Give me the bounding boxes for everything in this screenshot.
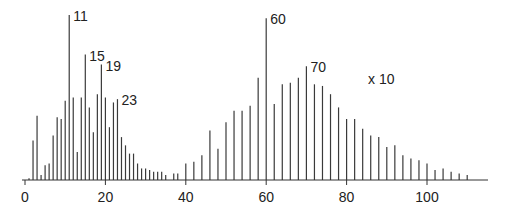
x-tick-label: 20: [98, 189, 114, 205]
peak-label: 15: [89, 48, 105, 64]
scale-note: x 10: [368, 71, 395, 87]
peak-label: 19: [105, 58, 121, 74]
peak-label: 60: [270, 11, 286, 27]
peak-label: 11: [73, 8, 88, 24]
x-tick-label: 100: [415, 189, 439, 205]
peak-annotations: 111519236070x 10: [73, 8, 394, 108]
x-tick-label: 80: [339, 189, 355, 205]
x-tick-label: 40: [178, 189, 194, 205]
x-ticks: 020406080100: [21, 180, 439, 205]
peak-label: 23: [121, 92, 137, 108]
bars-group: [29, 15, 467, 180]
x-tick-label: 0: [21, 189, 29, 205]
peak-label: 70: [310, 59, 326, 75]
mass-spectrum-chart: 020406080100 111519236070x 10: [0, 0, 505, 211]
x-tick-label: 60: [258, 189, 274, 205]
